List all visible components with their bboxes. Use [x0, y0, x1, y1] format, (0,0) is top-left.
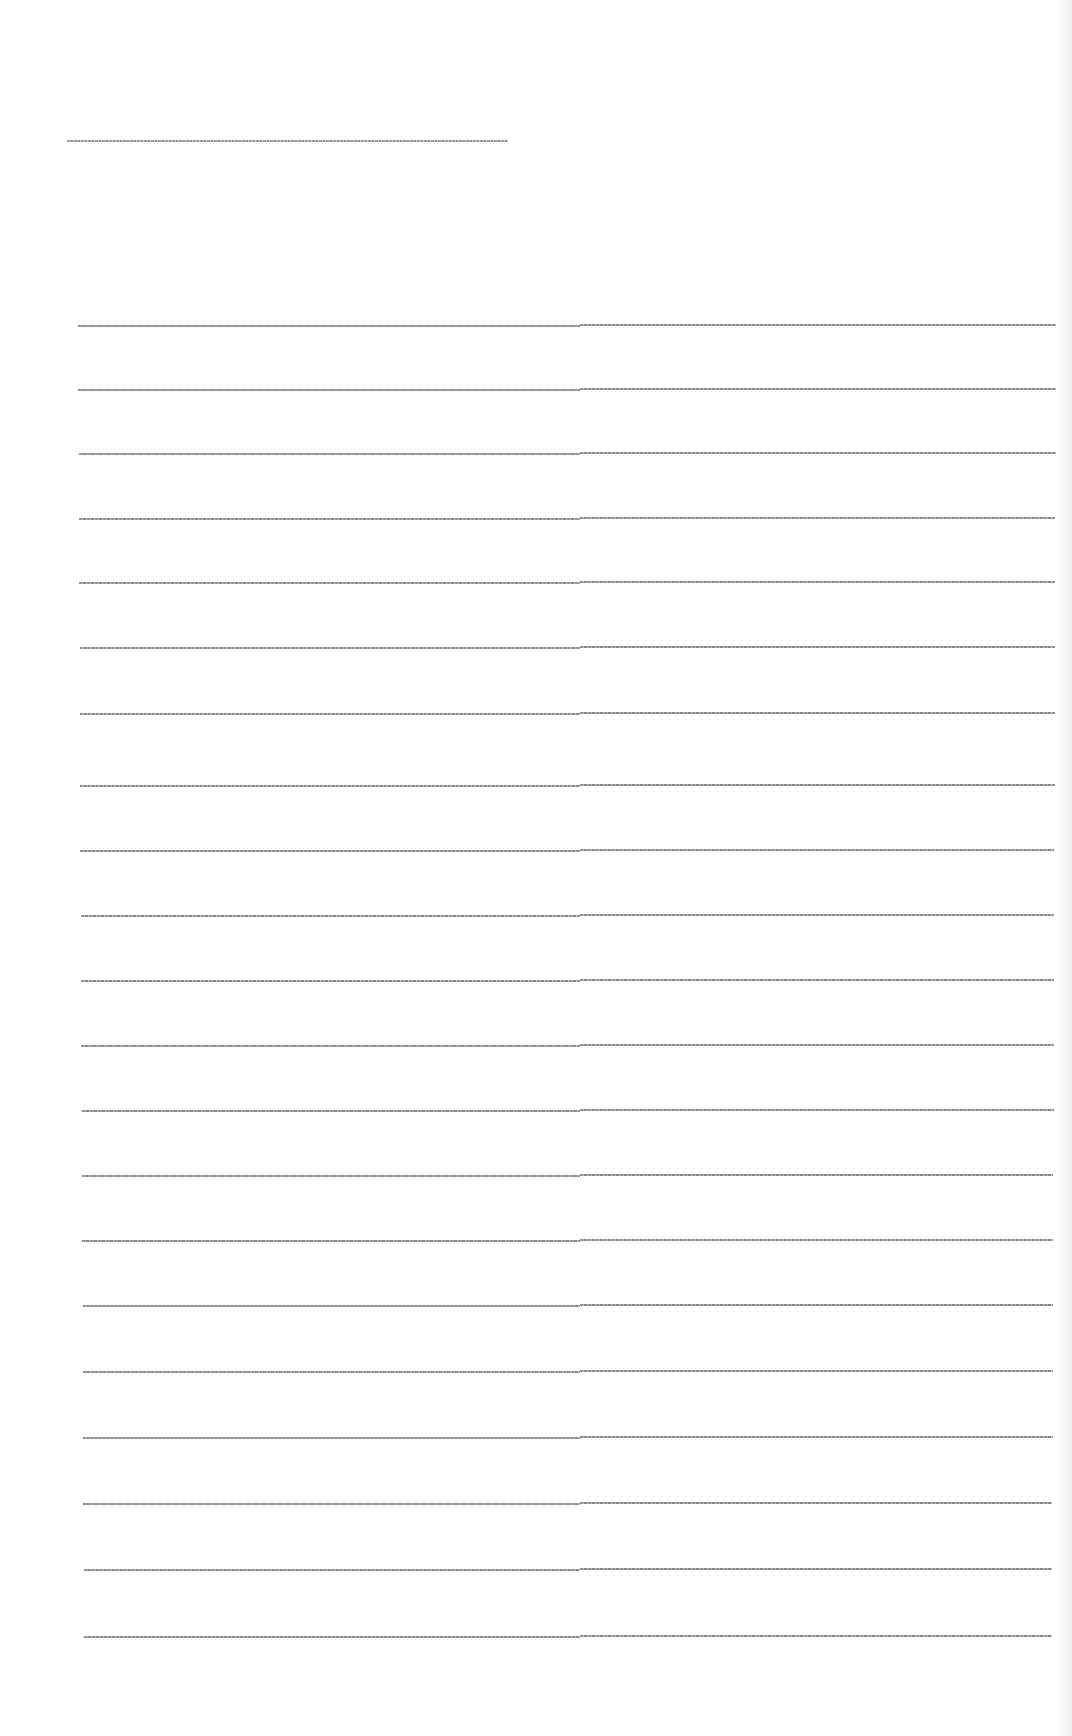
- ruled-line-right-segment: [580, 712, 1055, 714]
- ruled-line: [79, 582, 580, 584]
- ruled-line: [80, 785, 580, 787]
- ruled-line-right-segment: [580, 1370, 1053, 1372]
- ruled-line-right-segment: [580, 1436, 1053, 1438]
- ruled-line: [83, 1305, 580, 1307]
- ruled-line-right-segment: [580, 452, 1056, 454]
- ruled-line-right-segment: [580, 646, 1055, 648]
- ruled-line: [80, 850, 580, 852]
- ruled-line: [78, 325, 580, 327]
- ruled-line-right-segment: [580, 1635, 1052, 1637]
- ruled-line: [80, 713, 580, 715]
- ruled-line-right-segment: [580, 979, 1054, 981]
- ruled-line-right-segment: [580, 517, 1055, 519]
- ruled-line: [79, 518, 580, 520]
- page-edge-shadow: [1058, 0, 1072, 1736]
- ruled-line-right-segment: [580, 784, 1055, 786]
- ruled-line: [83, 1503, 580, 1505]
- ruled-line: [81, 915, 580, 917]
- header-line: [67, 140, 508, 142]
- ruled-line: [78, 389, 580, 391]
- ruled-line: [82, 1240, 580, 1242]
- ruled-line: [82, 1175, 580, 1177]
- ruled-line-right-segment: [580, 388, 1056, 390]
- ruled-line-right-segment: [580, 1174, 1053, 1176]
- ruled-line-right-segment: [580, 1568, 1052, 1570]
- ruled-line-right-segment: [580, 849, 1054, 851]
- ruled-line: [82, 1110, 580, 1112]
- ruled-line-right-segment: [580, 1109, 1054, 1111]
- ruled-line-right-segment: [580, 914, 1054, 916]
- ruled-line-right-segment: [580, 1304, 1053, 1306]
- ruled-line: [83, 1437, 580, 1439]
- ruled-line: [84, 1636, 580, 1638]
- ruled-line: [80, 647, 580, 649]
- ruled-line: [84, 1569, 580, 1571]
- ruled-line-right-segment: [580, 324, 1056, 326]
- ruled-line-right-segment: [580, 1502, 1052, 1504]
- ruled-line: [79, 453, 580, 455]
- ruled-line: [81, 1045, 580, 1047]
- ruled-line: [81, 980, 580, 982]
- ruled-paper-page: [0, 0, 1072, 1736]
- ruled-line-right-segment: [580, 1239, 1053, 1241]
- ruled-line-right-segment: [580, 1044, 1054, 1046]
- ruled-line-right-segment: [580, 581, 1055, 583]
- ruled-line: [83, 1371, 580, 1373]
